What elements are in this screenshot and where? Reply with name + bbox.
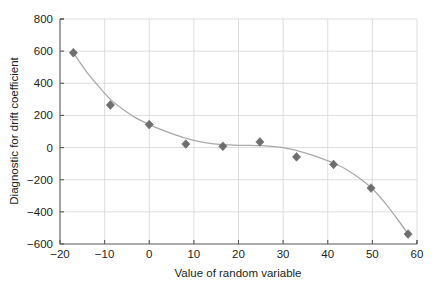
y-tick-label: −200 <box>27 174 53 186</box>
y-tick-label: −600 <box>27 238 53 250</box>
x-tick-label: −20 <box>50 248 70 260</box>
y-tick-label: 600 <box>34 45 53 57</box>
x-tick-label: 40 <box>321 248 334 260</box>
y-tick-label: 400 <box>34 77 53 89</box>
x-tick-label: −10 <box>95 248 115 260</box>
x-tick-label: 0 <box>146 248 152 260</box>
x-axis-title: Value of random variable <box>175 267 302 279</box>
x-tick-label: 30 <box>277 248 290 260</box>
x-tick-label: 20 <box>232 248 245 260</box>
x-tick-label: 10 <box>187 248 200 260</box>
x-axis-tick-labels: −20−100102030405060 <box>50 248 423 260</box>
y-tick-label: −400 <box>27 206 53 218</box>
x-tick-label: 60 <box>411 248 424 260</box>
chart-figure: −20−100102030405060 −600−400−20002004006… <box>0 0 432 289</box>
y-tick-label: 200 <box>34 109 53 121</box>
y-tick-label: 800 <box>34 13 53 25</box>
y-axis-title: Diagnostic for drift coefficient <box>8 56 20 204</box>
y-tick-label: 0 <box>47 142 53 154</box>
x-tick-label: 50 <box>366 248 379 260</box>
